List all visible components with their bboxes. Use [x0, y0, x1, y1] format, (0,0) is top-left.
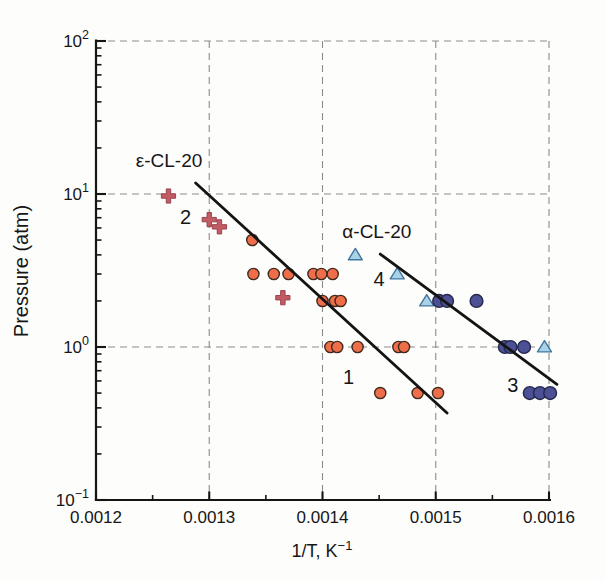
annotation-α-CL-20: α-CL-20: [342, 221, 411, 242]
pressure-vs-inverse-temperature-chart: 0.00120.00130.00140.00150.00161021011001…: [0, 0, 605, 581]
annotation-4: 4: [374, 268, 385, 290]
chart-figure: 0.00120.00130.00140.00150.00161021011001…: [0, 0, 605, 581]
annotation-1: 1: [343, 366, 354, 388]
x-tick-label: 0.0012: [70, 508, 122, 527]
x-axis-title: 1/T, K−1: [292, 538, 353, 562]
x-tick-label: 0.0013: [183, 508, 235, 527]
alpha-cl20-circles-point: [544, 387, 557, 400]
alpha-cl20-circles-point: [470, 295, 483, 308]
epsilon-cl20-circles-point: [398, 341, 409, 352]
fit-line-epsilon-1: [196, 183, 447, 413]
y-tick-label: 10−1: [56, 487, 89, 510]
y-tick-label: 102: [63, 28, 89, 51]
x-tick-label: 0.0016: [523, 508, 575, 527]
epsilon-cl20-circles-point: [327, 268, 338, 279]
x-axis-title-superscript: −1: [338, 538, 353, 553]
epsilon-cl20-circles-point: [268, 268, 279, 279]
epsilon-cl20-circles-point: [316, 268, 327, 279]
epsilon-cl20-circles-point: [432, 387, 443, 398]
epsilon-cl20-crosses-point: [276, 291, 290, 305]
epsilon-cl20-crosses-point: [161, 189, 175, 203]
y-tick-label: 100: [63, 334, 89, 357]
x-tick-label: 0.0015: [410, 508, 462, 527]
annotation-2: 2: [180, 206, 191, 228]
fit-line-alpha-3: [380, 254, 557, 384]
annotation-ε-CL-20: ε-CL-20: [136, 150, 203, 171]
epsilon-cl20-circles-point: [332, 341, 343, 352]
y-tick-label: 101: [63, 181, 89, 204]
x-tick-label: 0.0014: [297, 508, 349, 527]
alpha-cl20-triangles-point: [420, 295, 434, 306]
x-axis-title-main: 1/T, K: [292, 541, 338, 561]
alpha-cl20-triangles-point: [348, 248, 362, 259]
annotation-3: 3: [507, 374, 518, 396]
epsilon-cl20-circles-point: [335, 295, 346, 306]
alpha-cl20-circles-point: [518, 341, 531, 354]
y-axis-title: Pressure (atm): [10, 205, 33, 337]
epsilon-cl20-circles-point: [352, 341, 363, 352]
epsilon-cl20-circles-point: [248, 268, 259, 279]
epsilon-cl20-circles-point: [375, 387, 386, 398]
